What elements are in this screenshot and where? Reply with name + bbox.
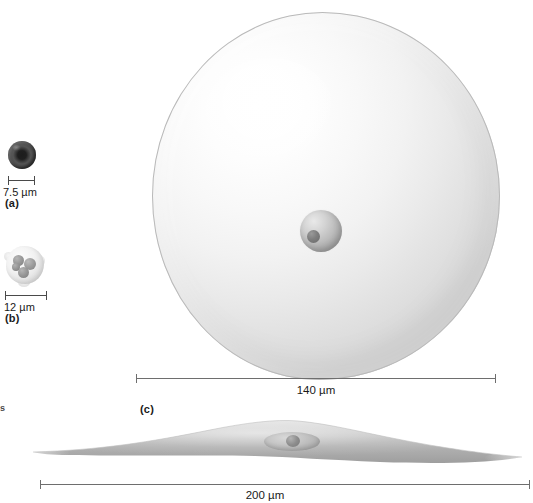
- egg-cell-nucleolus: [307, 230, 320, 243]
- scale-bar-rule: [8, 180, 35, 181]
- scale-bar-tick-right: [46, 291, 47, 300]
- margin-caption-fragment: s: [0, 403, 14, 414]
- scale-bar-white-blood-cell: [5, 291, 47, 300]
- scale-bar-tick-right: [529, 480, 530, 489]
- panel-label-b: (b): [5, 312, 20, 324]
- scale-bar-rule: [40, 484, 530, 485]
- scale-bar-tick-left: [40, 480, 41, 489]
- scale-bar-tick-left: [5, 291, 6, 300]
- scale-label-egg-cell: 140 µm: [136, 384, 496, 396]
- red-blood-cell-highlight: [13, 145, 21, 151]
- cell-size-comparison-figure: 7.5 µm (a) 12 µm (b) 140 µm (c) s: [0, 0, 533, 503]
- scale-bar-tick-right: [34, 176, 35, 185]
- panel-label-a: (a): [5, 197, 19, 209]
- scale-bar-tick-left: [8, 176, 9, 185]
- scale-bar-rule: [5, 295, 47, 296]
- egg-cell-highlight: [205, 58, 335, 168]
- white-blood-cell-nuclear-lobe: [18, 267, 29, 278]
- scale-bar-egg-cell: [136, 374, 496, 383]
- scale-bar-smooth-muscle-cell: [40, 480, 530, 489]
- smooth-muscle-cell-tip-left: [30, 448, 70, 458]
- scale-bar-red-blood-cell: [8, 176, 35, 185]
- red-blood-cell-illustration: [8, 141, 36, 169]
- scale-bar-rule: [136, 378, 496, 379]
- scale-bar-tick-left: [136, 374, 137, 383]
- egg-cell-nucleus: [300, 210, 342, 252]
- egg-cell-outline: [152, 12, 500, 380]
- scale-bar-tick-right: [495, 374, 496, 383]
- scale-label-smooth-muscle-cell: 200 µm: [40, 489, 490, 501]
- smooth-muscle-cell-nucleolus: [286, 435, 300, 447]
